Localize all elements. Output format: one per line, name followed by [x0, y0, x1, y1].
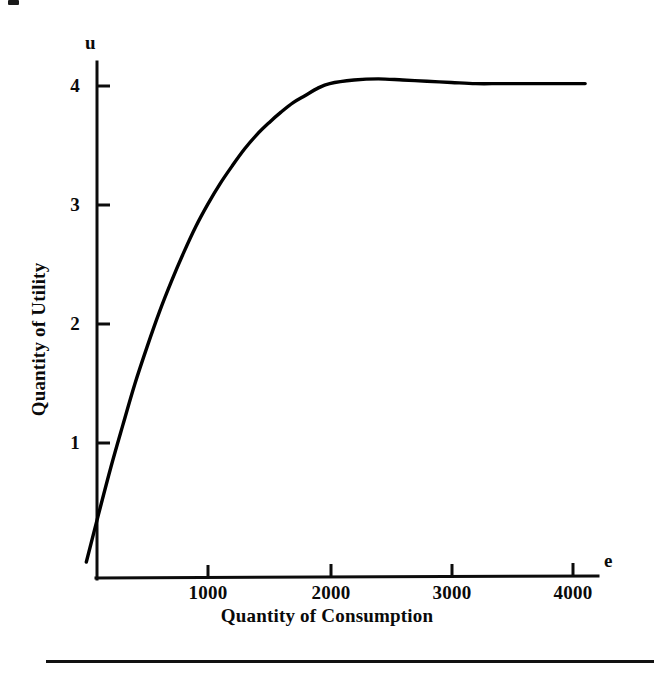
y-tick-label-4: 4 [58, 76, 80, 95]
utility-curve [86, 79, 585, 562]
y-axis-symbol-label: u [85, 33, 96, 52]
x-axis-symbol-label: e [604, 551, 613, 570]
x-tick-label-4000: 4000 [533, 583, 613, 602]
x-tick-label-2000: 2000 [291, 583, 371, 602]
x-axis-line [96, 576, 598, 578]
x-tick-label-3000: 3000 [412, 583, 492, 602]
y-tick-label-2: 2 [58, 314, 80, 333]
bottom-horizontal-rule [46, 660, 654, 663]
y-tick-label-3: 3 [58, 195, 80, 214]
plot-area [0, 0, 654, 679]
x-axis-title: Quantity of Consumption [0, 606, 654, 625]
y-axis-title: Quantity of Utility [29, 230, 48, 450]
y-tick-label-1: 1 [58, 433, 80, 452]
x-tick-label-1000: 1000 [168, 583, 248, 602]
figure-container: u e 4 3 2 1 1000 2000 3000 4000 Quantity… [0, 0, 654, 679]
